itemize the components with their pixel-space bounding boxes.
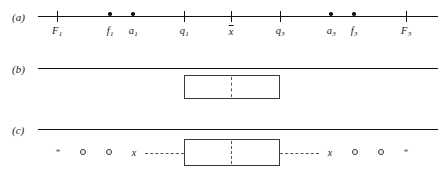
- point-upper-adjacent-a3: [329, 12, 333, 16]
- panel-label-a: (a): [12, 11, 25, 23]
- star-marker-far-outside-right: *: [404, 148, 409, 157]
- circle-marker-outside-left-1: [106, 149, 112, 155]
- axis-line-a: [38, 16, 438, 17]
- left-whisker: [145, 153, 184, 154]
- panel-label-c: (c): [12, 124, 24, 136]
- tick-label-lower-adjacent-a1: a1: [129, 25, 138, 36]
- axis-line-c: [38, 129, 438, 130]
- tick-label-third-quartile: q3: [276, 25, 285, 36]
- point-lower-adjacent-a1: [131, 12, 135, 16]
- tick-label-upper-inner-fence: F3: [401, 25, 411, 36]
- tick-label-lower-adjacent-f1: f1: [107, 25, 113, 36]
- interquartile-box-c: [184, 139, 280, 166]
- point-upper-adjacent-f3: [352, 12, 356, 16]
- tick-upper-inner-fence: [406, 11, 407, 22]
- tick-median: [231, 11, 232, 22]
- tick-third-quartile: [280, 11, 281, 22]
- tick-label-lower-inner-fence: F1: [52, 25, 62, 36]
- tick-first-quartile: [184, 11, 185, 22]
- tick-label-upper-adjacent-a3: a3: [327, 25, 336, 36]
- x-marker-whisker-end-right: x: [328, 147, 332, 158]
- point-lower-adjacent-f1: [108, 12, 112, 16]
- tick-lower-inner-fence: [57, 11, 58, 22]
- median-line-c: [231, 141, 232, 164]
- tick-label-median: x: [229, 25, 234, 37]
- tick-label-upper-adjacent-f3: f3: [351, 25, 357, 36]
- circle-marker-outside-right-1: [352, 149, 358, 155]
- median-line-b: [231, 77, 232, 97]
- panel-label-b: (b): [12, 63, 25, 75]
- axis-line-b: [38, 68, 438, 69]
- tick-label-first-quartile: q1: [180, 25, 189, 36]
- x-marker-whisker-end-left: x: [132, 147, 136, 158]
- circle-marker-outside-right-2: [378, 149, 384, 155]
- circle-marker-outside-left-2: [80, 149, 86, 155]
- right-whisker: [280, 153, 319, 154]
- star-marker-far-outside-left: *: [56, 148, 61, 157]
- interquartile-box-b: [184, 75, 280, 99]
